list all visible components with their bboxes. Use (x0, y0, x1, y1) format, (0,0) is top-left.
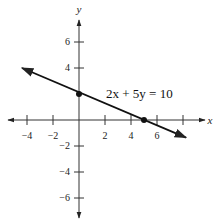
x-tick-label: 2 (103, 130, 108, 141)
line-2x-5y-10 (22, 68, 186, 138)
equation-label: 2x + 5y = 10 (106, 86, 173, 101)
x-intercept-point (141, 117, 147, 123)
coordinate-plane: −4 −2 2 4 6 6 4 −2 −4 −6 y x 2x + 5y = 1… (0, 0, 213, 220)
y-tick-label: 6 (65, 36, 70, 47)
x-tick-label: 4 (129, 130, 134, 141)
y-tick-label: −4 (59, 166, 70, 177)
y-tick-label: −6 (59, 192, 70, 203)
y-tick-label: −2 (59, 140, 70, 151)
y-tick-label: 4 (65, 62, 70, 73)
x-tick-label: −2 (48, 130, 59, 141)
x-tick-label: 6 (155, 130, 160, 141)
y-axis-label: y (76, 3, 82, 15)
y-intercept-point (76, 91, 82, 97)
x-tick-label: −4 (22, 130, 33, 141)
x-axis-label: x (207, 114, 213, 126)
